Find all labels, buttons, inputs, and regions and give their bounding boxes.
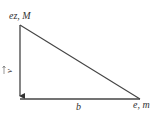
right-vertex-label: e, m [133, 99, 150, 110]
svg-text:v: v [4, 69, 14, 73]
hypotenuse [20, 25, 140, 99]
triangle-diagram: ez, M e, m b v [0, 0, 158, 119]
top-vertex-label: ez, M [9, 10, 31, 21]
velocity-vector-label: v [3, 66, 15, 74]
bottom-side-label: b [76, 101, 81, 112]
